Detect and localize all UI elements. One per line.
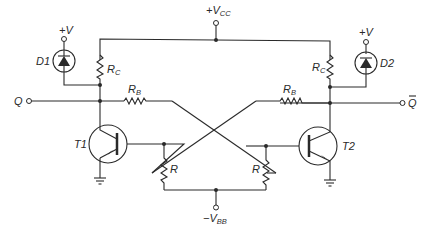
emitter-arrow-icon <box>108 150 113 155</box>
rc-left-label: RC <box>107 63 121 77</box>
cross-wire-1 <box>172 101 276 173</box>
ground-icon <box>324 180 336 186</box>
d2-supply-label: +V <box>359 26 374 38</box>
flip-flop-schematic: +VCC RC +V D1 Q RB <box>0 0 424 238</box>
r-right-label: R <box>252 163 260 175</box>
d2-label: D2 <box>380 57 394 69</box>
t1-label: T1 <box>74 138 87 150</box>
t2-label: T2 <box>342 140 355 152</box>
q-bar-terminal <box>400 101 405 106</box>
q-output: Q <box>14 95 124 107</box>
r-left-label: R <box>170 163 178 175</box>
q-label: Q <box>14 95 23 107</box>
vcc-rail <box>100 39 330 60</box>
diode-arrow-icon <box>360 58 372 68</box>
rb-left-resistor: RB <box>124 83 172 104</box>
t1-transistor: T1 <box>74 125 164 178</box>
vcc-label: +VCC <box>206 4 231 18</box>
d2-led: +V D2 <box>330 26 394 87</box>
vbb-terminal <box>214 205 219 210</box>
t2-transistor: T2 <box>266 127 355 180</box>
r-right-resistor: R <box>252 146 269 190</box>
ground-icon <box>94 178 106 184</box>
diode-arrow-icon <box>58 56 70 66</box>
d1-supply-label: +V <box>59 24 74 36</box>
rc-right-resistor: RC <box>312 55 333 87</box>
rc-right-label: RC <box>312 61 326 75</box>
rb-right-label: RB <box>283 83 296 97</box>
q-terminal <box>27 99 32 104</box>
vcc-terminal <box>214 21 219 26</box>
d1-label: D1 <box>36 55 50 67</box>
vcc-supply: +VCC <box>206 4 231 42</box>
q-bar-label: Q <box>408 97 417 109</box>
vbb-supply: −VBB <box>203 190 227 226</box>
rb-right-resistor: RB <box>256 83 330 104</box>
d1-led: +V D1 <box>36 24 100 85</box>
vbb-label: −VBB <box>203 212 227 226</box>
r-left-resistor: R <box>161 144 178 190</box>
cross-wire-2 <box>152 101 256 173</box>
rc-left-resistor: RC <box>97 55 121 85</box>
rb-left-label: RB <box>128 83 141 97</box>
